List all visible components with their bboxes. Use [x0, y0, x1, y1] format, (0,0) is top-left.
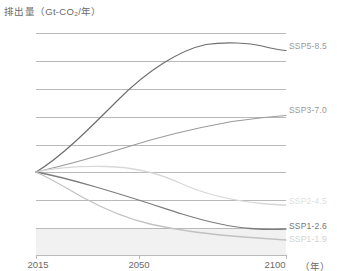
chart-root: 排出量（Gt-CO₂/年） 140 120 100 80 60 40 20 0 …	[0, 0, 337, 271]
series-label-ssp1-1-9: SSP1-1.9	[289, 234, 327, 244]
series-line-ssp5-8-5	[36, 43, 286, 172]
series-curves	[0, 0, 337, 271]
series-label-ssp3-7-0: SSP3-7.0	[289, 105, 327, 115]
series-line-ssp2-4-5	[36, 166, 286, 205]
series-label-ssp1-2-6: SSP1-2.6	[289, 221, 327, 231]
series-line-ssp1-1-9	[36, 172, 286, 240]
series-line-ssp1-2-6	[36, 172, 286, 229]
series-label-ssp5-8-5: SSP5-8.5	[289, 41, 327, 51]
series-label-ssp2-4-5: SSP2-4.5	[289, 196, 327, 206]
